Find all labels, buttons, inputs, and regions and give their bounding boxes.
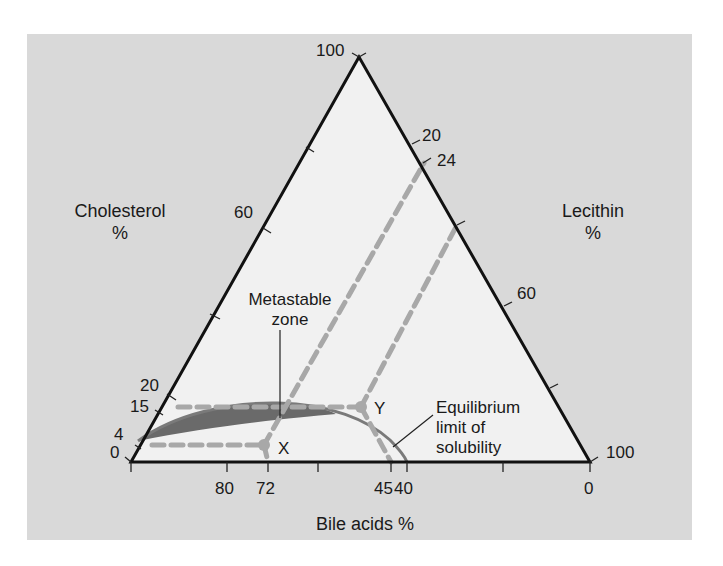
tick-right-20 [412, 140, 420, 144]
tick-label-left-4: 4 [114, 425, 123, 444]
tick-right-24 [423, 158, 431, 163]
tick-label-left-15: 15 [130, 397, 149, 416]
cholesterol-axis-unit: % [112, 223, 128, 243]
equilibrium-label-line3: solubility [436, 438, 502, 457]
tick-label-bottom-45: 45 [374, 479, 393, 498]
tick-label-bottom-0: 0 [584, 479, 593, 498]
tick-right-60 [504, 302, 512, 306]
cholesterol-axis-label: Cholesterol [74, 201, 165, 221]
equilibrium-label-line2: limit of [436, 418, 485, 437]
tick-label-right-24: 24 [437, 151, 456, 170]
tick-label-bottom-80: 80 [215, 479, 234, 498]
point-y-marker [355, 401, 367, 413]
tick-label-right-100: 100 [606, 443, 634, 462]
tick-label-right-20: 20 [422, 126, 441, 145]
lecithin-axis-unit: % [585, 223, 601, 243]
bile-acids-axis-label: Bile acids % [316, 514, 414, 534]
tick-right-80 [550, 384, 558, 388]
tick-label-bottom-72: 72 [256, 479, 275, 498]
point-x-label: X [278, 439, 289, 458]
metastable-zone-label-line1: Metastable [248, 290, 331, 309]
tick-label-left-0: 0 [110, 443, 119, 462]
tick-label-left-60: 60 [234, 203, 253, 222]
lecithin-axis-label: Lecithin [562, 201, 624, 221]
tick-left-0 [125, 457, 131, 462]
tick-label-right-60: 60 [517, 284, 536, 303]
tick-label-left-20: 20 [140, 376, 159, 395]
point-y-label: Y [374, 399, 385, 418]
equilibrium-label-line1: Equilibrium [436, 398, 520, 417]
point-x-marker [258, 439, 270, 451]
tick-right-100 [590, 457, 598, 462]
tick-label-left-100: 100 [316, 41, 344, 60]
tick-label-bottom-40: 40 [394, 479, 413, 498]
ternary-diagram: 100 60 20 15 4 0 20 24 60 100 80 72 45 4… [0, 0, 723, 566]
metastable-zone-label-line2: zone [272, 310, 309, 329]
tick-right-40 [457, 221, 465, 225]
